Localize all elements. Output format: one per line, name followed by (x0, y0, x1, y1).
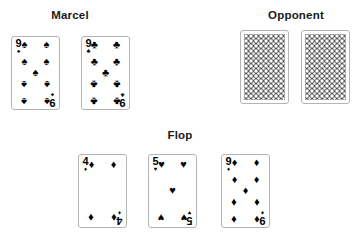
card-index-bottom-right: 9 ♠ (48, 92, 57, 107)
card-pip-club-icon: ♣ (111, 78, 123, 90)
opponent-hole-card-2[interactable] (301, 30, 350, 104)
card-pip-heart-icon: ♥ (178, 159, 190, 171)
card-pip-field: ♥♥♥♥♥ (158, 158, 187, 224)
card-pip-spade-icon: ♠ (18, 39, 30, 51)
card-rank-label: 9 (258, 216, 267, 225)
card-index-bottom-right: 9 ♦ (258, 210, 267, 225)
card-pip-field: ♠♠♠♠♠♠♠♠♠ (21, 40, 50, 106)
card-rank-label: 9 (118, 98, 127, 107)
card-pip-spade-icon: ♠ (18, 56, 30, 68)
card-index-bottom-right: 9 ♣ (118, 92, 127, 107)
card-rank-label: 9 (48, 98, 57, 107)
card-pip-diamond-icon: ♦ (108, 159, 120, 171)
card-pip-diamond-icon: ♦ (228, 174, 240, 186)
card-pip-diamond-icon: ♦ (228, 196, 240, 208)
card-pip-diamond-icon: ♦ (251, 196, 263, 208)
card-rank-label: 5 (185, 216, 194, 225)
card-pip-club-icon: ♣ (88, 78, 100, 90)
card-pip-heart-icon: ♥ (155, 211, 167, 223)
card-pip-diamond-icon: ♦ (85, 159, 97, 171)
player-hole-card-2[interactable]: 9 ♣ ♣♣♣♣♣♣♣♣♣ 9 ♣ (81, 36, 130, 110)
card-pip-field: ♦♦♦♦♦♦♦♦♦ (231, 158, 260, 224)
player-hole-card-1[interactable]: 9 ♠ ♠♠♠♠♠♠♠♠♠ 9 ♠ (11, 36, 60, 110)
card-pip-diamond-icon: ♦ (251, 174, 263, 186)
card-pip-club-icon: ♣ (100, 67, 112, 79)
board-card-3[interactable]: 9 ♦ ♦♦♦♦♦♦♦♦♦ 9 ♦ (221, 154, 270, 228)
board-card-1[interactable]: 4 ♦ ♦♦♦♦ 4 ♦ (78, 154, 127, 228)
card-pip-diamond-icon: ♦ (85, 211, 97, 223)
card-index-bottom-right: 5 ♥ (185, 210, 194, 225)
board-section-heading: Flop (60, 129, 300, 141)
card-back-pattern (244, 34, 285, 100)
board-card-2[interactable]: 5 ♥ ♥♥♥♥♥ 5 ♥ (148, 154, 197, 228)
opponent-hole-card-1[interactable] (240, 30, 289, 104)
card-pip-heart-icon: ♥ (155, 159, 167, 171)
card-pip-spade-icon: ♠ (41, 39, 53, 51)
card-pip-club-icon: ♣ (111, 39, 123, 51)
card-pip-field: ♣♣♣♣♣♣♣♣♣ (91, 40, 120, 106)
card-back-pattern (305, 34, 346, 100)
card-pip-diamond-icon: ♦ (251, 157, 263, 169)
card-pip-heart-icon: ♥ (167, 185, 179, 197)
card-pip-diamond-icon: ♦ (240, 185, 252, 197)
opponent-section-heading: Opponent (233, 9, 359, 21)
card-pip-spade-icon: ♠ (18, 78, 30, 90)
card-pip-spade-icon: ♠ (18, 95, 30, 107)
card-pip-club-icon: ♣ (88, 39, 100, 51)
card-rank-label: 4 (115, 216, 124, 225)
card-pip-spade-icon: ♠ (41, 78, 53, 90)
card-pip-diamond-icon: ♦ (228, 157, 240, 169)
card-pip-club-icon: ♣ (111, 56, 123, 68)
card-pip-club-icon: ♣ (88, 95, 100, 107)
card-pip-spade-icon: ♠ (41, 56, 53, 68)
card-index-bottom-right: 4 ♦ (115, 210, 124, 225)
card-pip-field: ♦♦♦♦ (88, 158, 117, 224)
card-pip-diamond-icon: ♦ (228, 213, 240, 225)
player-section-heading: Marcel (0, 9, 140, 21)
card-pip-spade-icon: ♠ (30, 67, 42, 79)
card-pip-club-icon: ♣ (88, 56, 100, 68)
